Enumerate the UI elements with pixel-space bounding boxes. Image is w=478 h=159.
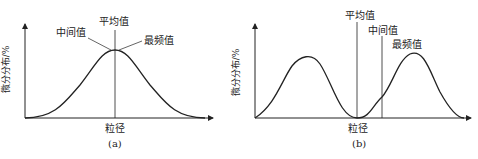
mode-label-b: 最频值 [392, 40, 422, 50]
panel-b [255, 22, 471, 118]
x-label-b: 粒径 [348, 124, 368, 134]
median-label-b: 中间值 [368, 26, 398, 36]
mode-label-a: 最频值 [144, 36, 174, 46]
x-label-a: 粒径 [105, 124, 125, 134]
mean-label-a: 平均值 [99, 17, 129, 27]
y-label-b: 微分分布/% [232, 49, 241, 97]
median-label-a: 中间值 [56, 28, 86, 38]
median-pointer-a [88, 38, 111, 50]
mode-pointer-a [119, 41, 142, 50]
y-label-a: 微分分布/% [2, 46, 11, 94]
caption-a: (a) [108, 139, 122, 149]
mean-label-b: 平均值 [345, 11, 375, 21]
curve-b [255, 53, 464, 118]
caption-b: (b) [352, 139, 366, 149]
panel-a [25, 24, 213, 118]
